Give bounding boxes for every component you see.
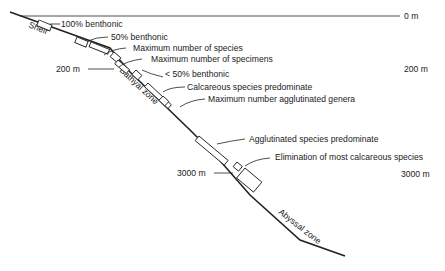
annotation-agglutinated-predominate: Agglutinated species predominate (249, 134, 379, 144)
zone-box-2 (75, 37, 88, 47)
leader-agglutinated-species (217, 139, 245, 144)
zone-box-9 (195, 136, 228, 165)
leader-agglutinated-genera (180, 99, 205, 107)
annotation-50-benthonic: 50% benthonic (111, 32, 169, 42)
annotation-max-species: Maximum number of species (133, 43, 243, 53)
zone-box-10 (233, 162, 242, 171)
annotation-max-agglutinated-genera: Maximum number agglutinated genera (208, 94, 355, 104)
depth-label-200m-left: 200 m (56, 64, 80, 74)
zone-box-11 (237, 168, 262, 192)
leader-calcareous (163, 87, 185, 92)
depth-label-3000m-right: 3000 m (401, 169, 430, 179)
depth-label-200m-right: 200 m (404, 64, 428, 74)
leader-elimination (245, 158, 270, 166)
annotation-elimination-calcareous: Elimination of most calcareous species (275, 152, 423, 162)
depth-label-0m: 0 m (404, 11, 418, 21)
depth-label-3000m-left: 3000 m (177, 168, 206, 178)
annotation-lt50-benthonic: < 50% benthonic (165, 69, 230, 79)
annotation-100-benthonic: 100% benthonic (61, 19, 123, 29)
annotation-max-specimens: Maximum number of specimens (151, 54, 273, 64)
leader-lt50-benthonic (142, 70, 163, 77)
foraminifera-depth-profile-diagram: 0 m Shelf Bathyal zone Abyssal zone 100%… (0, 0, 445, 271)
annotation-calcareous-predominate: Calcareous species predominate (187, 82, 312, 92)
